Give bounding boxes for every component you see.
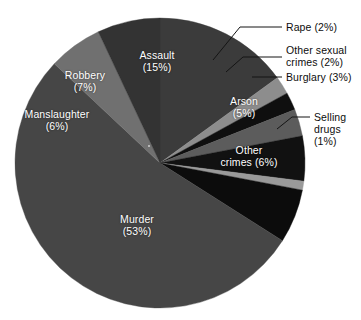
callout-label-burglary-text: Burglary (3%) <box>286 71 351 83</box>
slice-label-other-crimes: Other crimes (6%) <box>207 145 291 168</box>
callout-label-other-sexual-crimes-l2: crimes (2%) <box>286 56 347 68</box>
slice-label-murder-value: (53%) <box>123 225 152 237</box>
callout-label-selling-drugs: Selling drugs (1%) <box>314 111 346 147</box>
slice-label-robbery-name: Robbery <box>65 69 105 81</box>
slice-label-manslaughter-name: Manslaughter <box>25 108 90 120</box>
callout-label-rape: Rape (2%) <box>286 21 337 33</box>
slice-label-robbery-value: (7%) <box>74 81 97 93</box>
callout-label-rape-text: Rape (2%) <box>286 21 337 33</box>
pie-chart: Assault (15%) Robbery (7%) Manslaughter … <box>0 0 361 320</box>
slice-label-manslaughter: Manslaughter (6%) <box>13 109 101 132</box>
callout-label-burglary: Burglary (3%) <box>286 71 351 83</box>
slice-label-arson-value: (5%) <box>233 107 256 119</box>
slice-label-other-crimes-value: crimes (6%) <box>220 156 277 168</box>
slice-label-murder: Murder (53%) <box>101 214 173 237</box>
slice-label-murder-name: Murder <box>120 213 154 225</box>
callout-label-other-sexual-crimes: Other sexual crimes (2%) <box>286 44 347 68</box>
callout-label-selling-drugs-l1: Selling <box>314 111 346 123</box>
slice-label-assault: Assault (15%) <box>121 50 193 73</box>
callout-label-selling-drugs-l3: (1%) <box>314 135 346 147</box>
slice-label-assault-name: Assault <box>139 49 174 61</box>
center-speck <box>148 145 150 147</box>
callout-label-selling-drugs-l2: drugs <box>314 123 346 135</box>
slice-label-other-crimes-name: Other <box>236 144 263 156</box>
callout-label-other-sexual-crimes-l1: Other sexual <box>286 44 347 56</box>
slice-label-manslaughter-value: (6%) <box>46 120 69 132</box>
slice-label-assault-value: (15%) <box>143 61 172 73</box>
slice-label-arson: Arson (5%) <box>215 96 273 119</box>
slice-label-arson-name: Arson <box>230 95 258 107</box>
slice-label-robbery: Robbery (7%) <box>49 70 121 93</box>
